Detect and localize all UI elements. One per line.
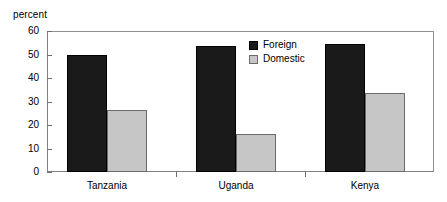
legend-swatch-foreign-icon	[249, 41, 258, 50]
legend-item-domestic: Domestic	[249, 53, 305, 65]
x-axis-separator	[305, 172, 306, 177]
bar-foreign-kenya	[325, 44, 365, 172]
bar-domestic-uganda	[236, 134, 276, 172]
y-axis-tick-label: 40	[13, 73, 39, 83]
bar-foreign-tanzania	[67, 55, 107, 173]
y-axis-tick-label: 0	[13, 167, 39, 177]
y-axis-tick-label: 50	[13, 50, 39, 60]
bar-foreign-uganda	[196, 46, 236, 172]
x-axis-label-uganda: Uganda	[218, 180, 253, 191]
chart-screenshot: percent 0102030405060 TanzaniaUgandaKeny…	[0, 0, 447, 202]
legend-label-foreign: Foreign	[263, 40, 297, 50]
x-axis-label-kenya: Kenya	[351, 180, 379, 191]
y-axis-tick-label: 20	[13, 120, 39, 130]
legend-label-domestic: Domestic	[263, 54, 305, 64]
bar-domestic-kenya	[365, 93, 405, 172]
x-axis-label-tanzania: Tanzania	[87, 180, 127, 191]
legend-swatch-domestic-icon	[249, 55, 258, 64]
y-axis-tick-label: 10	[13, 144, 39, 154]
y-axis-tick-label: 30	[13, 97, 39, 107]
bar-domestic-tanzania	[107, 110, 147, 172]
bar-group-container	[47, 31, 434, 172]
y-axis-tick-mark	[47, 172, 52, 173]
x-axis-separator	[176, 172, 177, 177]
legend-item-foreign: Foreign	[249, 39, 305, 51]
y-axis-tick-label: 60	[13, 26, 39, 36]
chart-legend: Foreign Domestic	[249, 39, 305, 67]
